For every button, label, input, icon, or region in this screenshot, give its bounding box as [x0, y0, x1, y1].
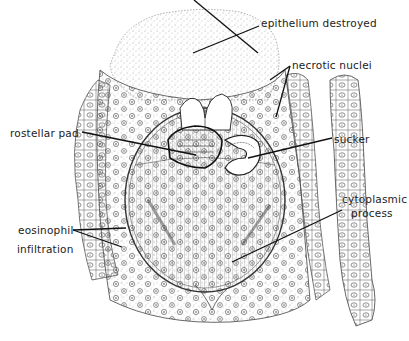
label-infiltration: infiltration [17, 243, 73, 256]
label-eosinophil: eosinophil [18, 224, 74, 237]
label-epithelium-destroyed: epithelium destroyed [261, 17, 377, 30]
label-rostellar-pad: rostellar pad [10, 127, 79, 140]
label-process: process [351, 207, 393, 220]
rostellar-pad [168, 126, 222, 168]
label-cytoplasmic: cytoplasmic [342, 193, 407, 206]
label-necrotic-nuclei: necrotic nuclei [292, 59, 372, 72]
epithelium-region [110, 9, 279, 100]
label-sucker: sucker [334, 133, 370, 146]
tissue-illustration [0, 0, 409, 341]
